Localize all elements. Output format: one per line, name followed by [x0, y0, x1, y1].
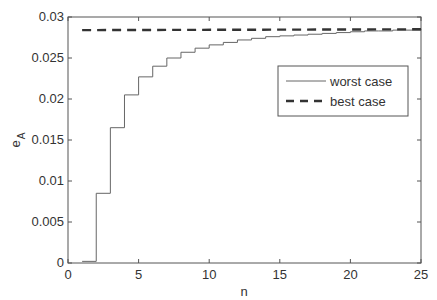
legend-worst-label: worst case [329, 74, 392, 89]
y-tick-label: 0.01 [39, 173, 64, 188]
legend-best-label: best case [330, 94, 386, 109]
x-tick-label: 0 [64, 267, 71, 282]
x-tick-label: 5 [135, 267, 142, 282]
y-tick-label: 0.03 [39, 9, 64, 24]
y-axis-label-main: e [8, 140, 23, 147]
y-axis-label-sub: A [16, 132, 27, 139]
y-tick-label: 0.02 [39, 91, 64, 106]
legend: worst case best case [278, 66, 408, 116]
plot-frame [68, 17, 421, 263]
chart: 0510152025 00.0050.010.0150.020.0250.03 … [0, 0, 437, 300]
worst-case-line [82, 29, 421, 261]
x-tick-label: 15 [273, 267, 287, 282]
y-tick-label: 0.005 [31, 214, 64, 229]
x-tick-label: 10 [202, 267, 216, 282]
x-tick-label: 25 [414, 267, 428, 282]
y-tick-label: 0 [57, 255, 64, 270]
x-axis-label: n [240, 284, 247, 299]
y-tick-label: 0.015 [31, 132, 64, 147]
y-tick-label: 0.025 [31, 50, 64, 65]
plot-area: 0510152025 00.0050.010.0150.020.0250.03 [31, 9, 428, 282]
x-axis-ticks: 0510152025 [64, 17, 428, 282]
best-case-line [82, 29, 421, 30]
y-axis-ticks: 00.0050.010.0150.020.0250.03 [31, 9, 421, 270]
y-axis-label: e A [8, 132, 27, 147]
x-tick-label: 20 [343, 267, 357, 282]
